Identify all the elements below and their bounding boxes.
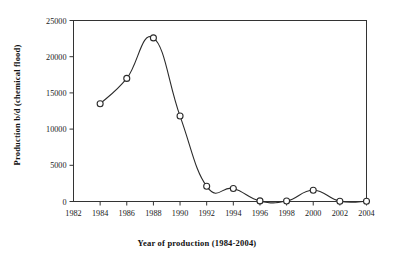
x-tick-label: 1992 [198, 209, 214, 218]
x-tick-label: 1988 [145, 209, 161, 218]
data-point-marker [284, 198, 290, 204]
data-point-marker [204, 183, 210, 189]
y-axis-tick-marks [70, 21, 74, 202]
x-tick-label: 1984 [92, 209, 108, 218]
x-tick-label: 2004 [358, 209, 374, 218]
data-point-marker [364, 198, 370, 204]
y-tick-label: 0 [62, 198, 66, 207]
data-point-marker [257, 198, 263, 204]
series-line-production [100, 37, 366, 203]
series-markers [97, 35, 369, 204]
x-tick-label: 1982 [65, 209, 81, 218]
x-tick-label: 2002 [332, 209, 348, 218]
x-tick-label: 2000 [305, 209, 321, 218]
x-tick-label: 1998 [278, 209, 294, 218]
x-axis-title-container: Year of production (1984-2004) [0, 232, 394, 250]
data-point-marker [230, 185, 236, 191]
plot-frame [74, 21, 367, 202]
chart-container: Production b/d (chemical flood) 05000100… [0, 0, 394, 259]
x-tick-label: 1994 [225, 209, 241, 218]
data-point-marker [310, 187, 316, 193]
x-axis-tick-labels: 1982198419861988199019921994199619982000… [65, 209, 374, 218]
data-point-marker [124, 75, 130, 81]
data-point-marker [150, 35, 156, 41]
line-chart-plot: 0500010000150002000025000 19821984198619… [0, 0, 394, 259]
x-tick-label: 1990 [172, 209, 188, 218]
data-point-marker [177, 113, 183, 119]
y-tick-label: 10000 [46, 125, 66, 134]
y-tick-label: 25000 [46, 17, 66, 26]
y-tick-label: 5000 [50, 161, 66, 170]
y-tick-label: 15000 [46, 89, 66, 98]
y-axis-tick-labels: 0500010000150002000025000 [46, 17, 66, 207]
x-axis-title: Year of production (1984-2004) [138, 238, 257, 248]
x-tick-label: 1996 [252, 209, 268, 218]
x-tick-label: 1986 [119, 209, 135, 218]
data-point-marker [97, 101, 103, 107]
data-point-marker [337, 198, 343, 204]
y-tick-label: 20000 [46, 53, 66, 62]
x-axis-tick-marks [100, 202, 366, 206]
